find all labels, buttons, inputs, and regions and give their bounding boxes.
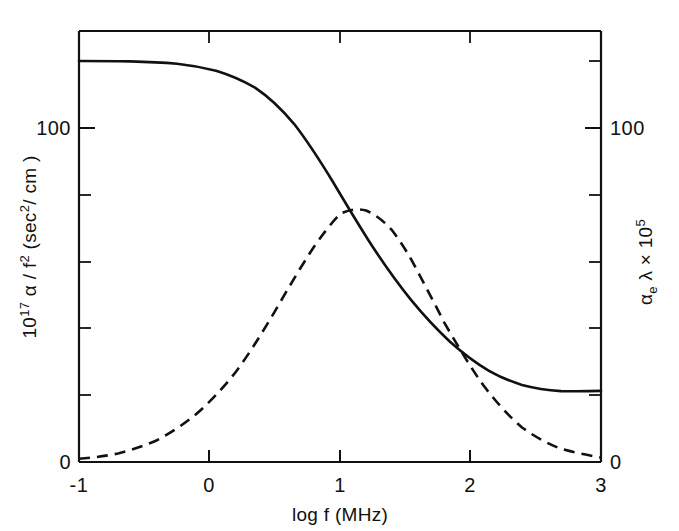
y-left-tick-label: 100 [36,117,71,139]
svg-text:1017 α / f2 (sec2/ cm ): 1017 α / f2 (sec2/ cm ) [17,155,40,338]
y-right-axis-label: αe λ × 105 [633,219,660,305]
chart-svg: -1 0 1 2 3 100 0 100 0 log f (MHz) 1017 … [0,0,679,531]
y-right-label-sym2: λ × 10 [635,227,656,287]
x-tick-label: 0 [203,474,215,496]
x-axis-ticks [79,31,601,462]
y-left-label-tail-end: / cm ) [19,155,40,204]
y-left-label-lead: 10 [19,317,40,339]
x-tick-label: 1 [334,474,346,496]
relaxation-figure: -1 0 1 2 3 100 0 100 0 log f (MHz) 1017 … [0,0,679,531]
y-left-axis-label: 1017 α / f2 (sec2/ cm ) [17,155,40,338]
x-axis-label: log f (MHz) [292,504,388,525]
y-right-label-sym: α [635,294,656,305]
svg-text:αe λ × 105: αe λ × 105 [633,219,660,305]
x-tick-label: -1 [70,474,89,496]
y-left-label-tail: (sec [19,212,40,255]
y-right-label-sym-sub: e [645,286,660,294]
curve-absorption-per-wavelength [79,209,601,458]
y-left-tick-labels: 100 0 [36,117,71,473]
y-left-tick-label: 0 [59,451,71,473]
y-right-ticks [585,61,601,395]
x-tick-label: 3 [595,474,607,496]
y-left-label-sym: α / f [19,262,40,302]
x-tick-labels: -1 0 1 2 3 [70,474,607,496]
x-tick-label: 2 [464,474,476,496]
y-right-label-sym2-sup: 5 [633,219,648,227]
y-left-label-tail-sup: 2 [17,205,32,213]
y-right-tick-label: 0 [610,451,622,473]
y-left-ticks [79,61,95,395]
y-right-tick-label: 100 [610,117,645,139]
y-left-label-lead-sup: 17 [17,302,32,317]
curve-alpha-over-f-squared [79,61,601,391]
y-left-label-sym-sup: 2 [17,255,32,263]
plot-frame [79,31,601,462]
